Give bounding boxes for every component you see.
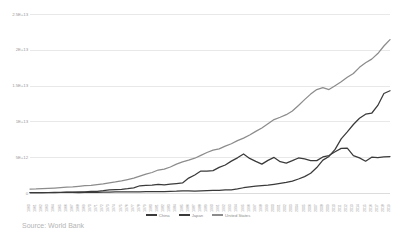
series-line-united-states bbox=[30, 40, 390, 190]
legend-item-japan[interactable]: Japan bbox=[179, 213, 203, 218]
y-axis-tick-label: 5E+12 bbox=[2, 155, 28, 160]
y-axis-tick-label: 2.5E+13 bbox=[2, 12, 28, 17]
source-note: Source: World Bank bbox=[22, 221, 84, 230]
gdp-line-chart: 2.5E+132E+131.5E+131E+135E+120 196019611… bbox=[0, 0, 396, 232]
legend-label: China bbox=[159, 213, 170, 218]
legend-label: United States bbox=[225, 213, 250, 218]
y-axis-tick-label: 1.5E+13 bbox=[2, 83, 28, 88]
series-lines bbox=[30, 14, 390, 193]
legend-swatch bbox=[146, 214, 157, 216]
y-axis-tick-label: 0 bbox=[2, 191, 28, 196]
series-line-china bbox=[30, 91, 390, 193]
plot-area bbox=[30, 14, 390, 193]
y-axis-tick-label: 1E+13 bbox=[2, 119, 28, 124]
legend-item-china[interactable]: China bbox=[146, 213, 170, 218]
y-axis-tick-labels: 2.5E+132E+131.5E+131E+135E+120 bbox=[0, 14, 28, 193]
y-axis-tick-label: 2E+13 bbox=[2, 47, 28, 52]
legend-swatch bbox=[179, 214, 190, 216]
chart-legend: ChinaJapanUnited States bbox=[0, 210, 396, 220]
legend-item-united-states[interactable]: United States bbox=[212, 213, 250, 218]
legend-label: Japan bbox=[192, 213, 203, 218]
legend-swatch bbox=[212, 214, 223, 216]
